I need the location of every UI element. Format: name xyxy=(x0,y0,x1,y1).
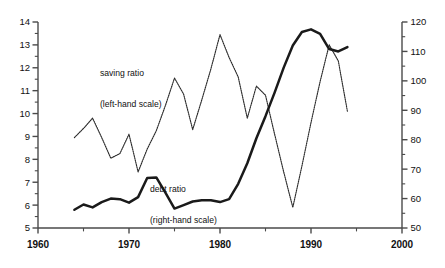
y-right-tick-label: 50 xyxy=(411,222,422,233)
debt-ratio-label-line2: (right-hand scale) xyxy=(150,215,217,225)
x-tick-label: 1960 xyxy=(27,239,50,250)
y-left-tick-label: 13 xyxy=(19,39,30,50)
saving-ratio-label-line1: saving ratio xyxy=(100,68,162,78)
x-tick-label: 2000 xyxy=(391,239,414,250)
debt-ratio-label-line1: debt ratio xyxy=(150,184,217,194)
y-right-tick-label: 100 xyxy=(411,75,427,86)
y-left-tick-label: 7 xyxy=(25,177,30,188)
saving-ratio-annotation: saving ratio (left-hand scale) xyxy=(100,47,162,130)
y-left-tick-label: 10 xyxy=(19,108,30,119)
y-left-tick-label: 8 xyxy=(25,154,30,165)
tick-labels: 5678910111213145060708090100110120196019… xyxy=(19,16,426,250)
debt-ratio-annotation: debt ratio (right-hand scale) xyxy=(150,163,217,246)
y-left-tick-label: 9 xyxy=(25,131,30,142)
y-right-tick-label: 90 xyxy=(411,105,422,116)
y-left-tick-label: 5 xyxy=(25,222,30,233)
y-left-tick-label: 12 xyxy=(19,62,30,73)
x-tick-label: 1990 xyxy=(300,239,323,250)
x-tick-label: 1970 xyxy=(118,239,141,250)
y-right-tick-label: 120 xyxy=(411,16,427,27)
y-left-tick-label: 6 xyxy=(25,200,30,211)
y-left-tick-label: 11 xyxy=(20,85,30,96)
dual-axis-line-chart: 5678910111213145060708090100110120196019… xyxy=(0,0,445,268)
y-right-tick-label: 110 xyxy=(411,46,426,57)
chart-container: 5678910111213145060708090100110120196019… xyxy=(0,0,445,268)
y-right-tick-label: 60 xyxy=(411,193,422,204)
y-right-tick-label: 70 xyxy=(411,164,422,175)
y-right-tick-label: 80 xyxy=(411,134,422,145)
saving-ratio-label-line2: (left-hand scale) xyxy=(100,99,162,109)
y-left-tick-label: 14 xyxy=(19,16,30,27)
